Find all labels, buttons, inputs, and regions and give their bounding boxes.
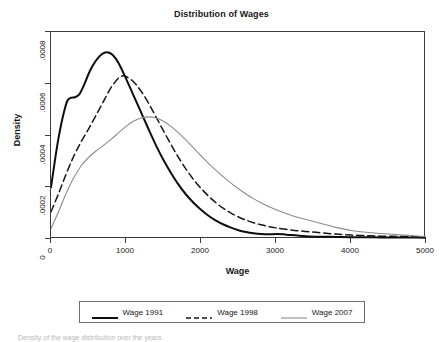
x-tick-label: 2000 bbox=[180, 246, 220, 255]
figure-caption-clipped: Density of the wage distribution over th… bbox=[0, 334, 443, 342]
density-curve bbox=[51, 76, 426, 237]
y-tick-label: .0004 bbox=[38, 133, 47, 175]
legend-line-swatch bbox=[281, 308, 307, 316]
density-curves bbox=[51, 32, 426, 239]
legend-line-swatch bbox=[186, 308, 212, 316]
plot-area bbox=[50, 31, 425, 238]
density-curve bbox=[51, 52, 426, 238]
x-tick-label: 4000 bbox=[330, 246, 370, 255]
legend-label: Wage 1991 bbox=[123, 308, 164, 317]
y-tick-label: .0002 bbox=[38, 185, 47, 227]
figure-caption-text: Density of the wage distribution over th… bbox=[0, 334, 443, 342]
y-tick-label: 0 bbox=[38, 237, 47, 279]
chart-figure: Distribution of Wages Density 0.0002.000… bbox=[0, 0, 443, 342]
legend-item[interactable]: Wage 1991 bbox=[92, 308, 164, 317]
legend-item[interactable]: Wage 2007 bbox=[281, 308, 353, 317]
y-tick-label: .0008 bbox=[38, 30, 47, 72]
legend-item[interactable]: Wage 1998 bbox=[186, 308, 258, 317]
x-tick-label: 0 bbox=[30, 246, 70, 255]
chart-legend: Wage 1991Wage 1998Wage 2007 bbox=[79, 301, 365, 323]
x-tick-label: 3000 bbox=[255, 246, 295, 255]
y-axis-label: Density bbox=[12, 95, 22, 165]
y-tick-label: .0006 bbox=[38, 81, 47, 123]
x-tick-label: 1000 bbox=[105, 246, 145, 255]
legend-label: Wage 1998 bbox=[217, 308, 258, 317]
x-axis-label: Wage bbox=[50, 266, 425, 276]
density-curve bbox=[51, 117, 426, 237]
legend-label: Wage 2007 bbox=[312, 308, 353, 317]
legend-line-swatch bbox=[92, 308, 118, 316]
chart-title: Distribution of Wages bbox=[0, 9, 443, 19]
x-tick-label: 5000 bbox=[405, 246, 443, 255]
